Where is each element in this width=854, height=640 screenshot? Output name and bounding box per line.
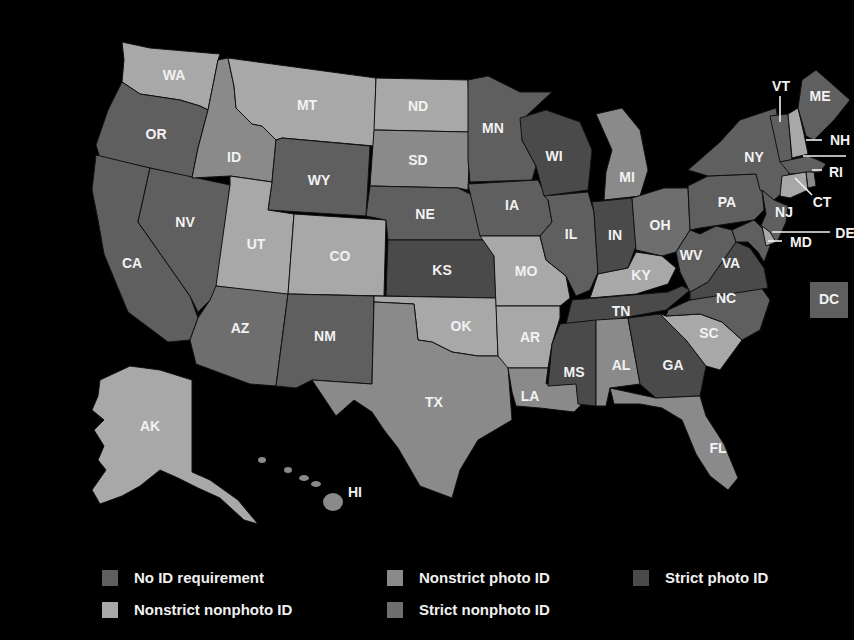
label-KY: KY [631,267,651,283]
legend-item-strict-photo: Strict photo ID [633,569,768,586]
state-CT[interactable] [780,172,808,198]
label-MT: MT [297,97,318,113]
label-GA: GA [663,357,684,373]
label-VT: VT [772,78,790,94]
label-CO: CO [330,248,351,264]
label-CA: CA [122,255,142,271]
label-PA: PA [718,194,736,210]
label-OR: OR [146,126,167,142]
legend-label: Strict nonphoto ID [419,601,550,618]
label-TN: TN [612,303,631,319]
label-NH: NH [830,132,850,148]
legend-label: Strict photo ID [665,569,768,586]
label-MD: MD [790,234,812,250]
label-ND: ND [408,98,428,114]
legend-label: Nonstrict photo ID [419,569,550,586]
label-AR: AR [520,329,540,345]
label-KS: KS [432,262,451,278]
legend-item-nonstrict-photo: Nonstrict photo ID [387,569,550,586]
label-SC: SC [699,325,718,341]
label-SD: SD [408,152,427,168]
label-MN: MN [482,120,504,136]
label-WY: WY [308,172,331,188]
label-OK: OK [451,318,472,334]
label-WA: WA [163,67,186,83]
label-CT: CT [813,194,832,210]
label-HI: HI [348,484,362,500]
label-DC: DC [819,291,839,307]
label-UT: UT [247,236,266,252]
legend-label: No ID requirement [134,569,264,586]
label-OH: OH [650,217,671,233]
label-DE: DE [835,225,854,241]
label-MI: MI [619,169,635,185]
label-RI: RI [829,164,843,180]
state-HI[interactable] [258,457,343,511]
legend-item-no-id: No ID requirement [102,569,264,586]
label-AZ: AZ [231,320,250,336]
label-IA: IA [505,197,519,213]
legend-item-nonstrict-nonphoto: Nonstrict nonphoto ID [102,601,292,618]
label-WI: WI [545,148,562,164]
legend-swatch-nonstrict-photo [387,570,403,586]
state-MI[interactable] [596,108,648,200]
label-MS: MS [564,364,585,380]
us-voter-id-map: WA OR CA NV ID MT WY UT CO AZ NM ND SD N… [0,0,854,540]
label-NY: NY [744,149,764,165]
label-WV: WV [680,247,703,263]
legend: No ID requirement Nonstrict photo ID Str… [0,560,854,630]
legend-item-strict-nonphoto: Strict nonphoto ID [387,601,550,618]
legend-label: Nonstrict nonphoto ID [134,601,292,618]
label-NM: NM [314,328,336,344]
label-LA: LA [521,388,540,404]
label-NJ: NJ [775,204,793,220]
label-NV: NV [175,214,195,230]
label-ID: ID [227,149,241,165]
state-AK[interactable] [92,366,258,524]
label-FL: FL [709,440,727,456]
legend-swatch-strict-photo [633,570,649,586]
label-IL: IL [565,226,578,242]
state-RI[interactable] [806,172,816,188]
label-NE: NE [415,206,434,222]
label-VA: VA [722,255,740,271]
legend-swatch-strict-nonphoto [387,602,403,618]
label-AK: AK [140,418,160,434]
legend-swatch-no-id [102,570,118,586]
label-IN: IN [608,227,622,243]
label-MO: MO [515,263,538,279]
legend-swatch-nonstrict-nonphoto [102,602,118,618]
label-TX: TX [425,394,444,410]
state-ME[interactable] [798,70,850,140]
label-ME: ME [810,88,831,104]
label-AL: AL [612,357,631,373]
label-NC: NC [716,290,736,306]
